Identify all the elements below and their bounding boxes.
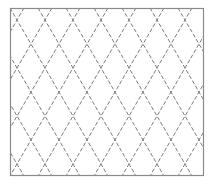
hatch-line-up: [206, 8, 212, 176]
diagram-background: [10, 8, 204, 176]
crosshatch-diagram: [0, 0, 212, 184]
figure-canvas: [0, 0, 212, 184]
hatch-line-down: [206, 8, 212, 176]
